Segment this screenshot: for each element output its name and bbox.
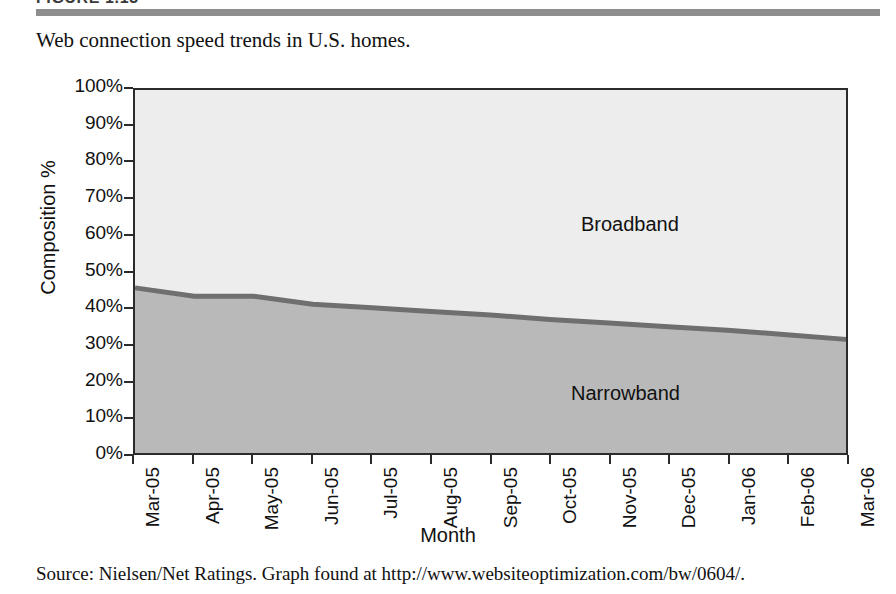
y-tick-mark	[124, 124, 133, 126]
plot-area: Broadband Narrowband	[133, 88, 848, 455]
y-tick-mark	[124, 197, 133, 199]
series-label-narrowband: Narrowband	[571, 382, 680, 405]
y-tick-label: 60%	[43, 222, 123, 244]
x-tick-mark	[370, 455, 372, 464]
area-chart: Composition % 0%10%20%30%40%50%60%70%80%…	[0, 66, 896, 556]
y-tick-mark	[124, 271, 133, 273]
y-tick-mark	[124, 307, 133, 309]
y-tick-label: 10%	[43, 405, 123, 427]
figure-header-rule	[36, 9, 880, 16]
y-tick-mark	[124, 234, 133, 236]
x-tick-mark	[192, 455, 194, 464]
figure-number-label: FIGURE 1.13	[36, 0, 139, 7]
y-tick-label: 100%	[43, 75, 123, 97]
y-tick-label: 40%	[43, 295, 123, 317]
x-tick-mark	[549, 455, 551, 464]
x-tick-mark	[609, 455, 611, 464]
y-tick-mark	[124, 417, 133, 419]
y-tick-mark	[124, 381, 133, 383]
y-tick-label: 30%	[43, 332, 123, 354]
y-tick-label: 80%	[43, 148, 123, 170]
y-tick-label: 20%	[43, 369, 123, 391]
series-label-broadband: Broadband	[581, 213, 679, 236]
x-tick-mark	[668, 455, 670, 464]
y-tick-label: 90%	[43, 112, 123, 134]
x-tick-mark	[430, 455, 432, 464]
y-tick-mark	[124, 160, 133, 162]
x-tick-mark	[787, 455, 789, 464]
y-tick-mark	[124, 87, 133, 89]
x-tick-mark	[490, 455, 492, 464]
y-tick-mark	[124, 344, 133, 346]
x-axis-title: Month	[0, 524, 896, 547]
plot-series-svg	[135, 90, 846, 453]
figure-header: FIGURE 1.13	[0, 0, 896, 24]
y-tick-label: 50%	[43, 259, 123, 281]
x-tick-mark	[311, 455, 313, 464]
y-tick-label: 0%	[43, 442, 123, 464]
figure-caption: Web connection speed trends in U.S. home…	[36, 28, 410, 53]
x-tick-mark	[847, 455, 849, 464]
y-tick-label: 70%	[43, 185, 123, 207]
x-tick-mark	[728, 455, 730, 464]
x-tick-mark	[251, 455, 253, 464]
source-note: Source: Nielsen/Net Ratings. Graph found…	[36, 563, 745, 585]
x-tick-mark	[132, 455, 134, 464]
